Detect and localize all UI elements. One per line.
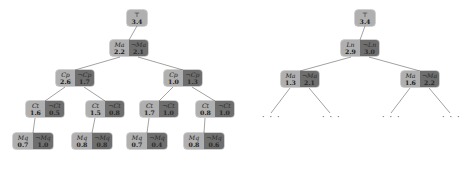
node-literal: ¬Mq xyxy=(149,134,164,141)
node-cell-negative[interactable]: ¬Ma2.1 xyxy=(129,40,148,56)
node-literal: ¬Ct xyxy=(108,102,120,109)
node-value: 3.4 xyxy=(132,18,143,25)
node-cell-positive[interactable]: Ma2.2 xyxy=(110,40,129,56)
node-cell-positive[interactable]: Ct0.8 xyxy=(196,101,215,117)
tree-edge xyxy=(129,26,137,40)
node-cell-positive[interactable]: Cp2.6 xyxy=(56,70,75,86)
node-cell-negative[interactable]: ¬Mq0.6 xyxy=(204,133,224,149)
node-value: 2.2 xyxy=(424,79,435,86)
node-literal: Ln xyxy=(346,41,354,48)
tree-node[interactable]: Ct1.7¬Ct1.0 xyxy=(140,101,178,117)
node-cell-positive[interactable]: Mq0.8 xyxy=(72,133,92,149)
tree-edge xyxy=(391,88,410,113)
node-value: 2.2 xyxy=(114,48,125,55)
node-literal: ¬Ma xyxy=(302,72,317,79)
node-literal: Ma xyxy=(405,72,415,79)
node-cell-negative[interactable]: ¬Mq1.0 xyxy=(33,133,53,149)
node-value: 0.8 xyxy=(200,109,211,116)
node-value: 1.0 xyxy=(219,109,230,116)
node-literal: Mq xyxy=(189,134,199,141)
node-value: 0.8 xyxy=(189,141,200,148)
node-cell-negative[interactable]: ¬Cp1.7 xyxy=(75,70,94,86)
node-value: 1.7 xyxy=(144,109,155,116)
tree-node[interactable]: Ct0.8¬Ct1.0 xyxy=(196,101,234,117)
node-literal: ¬Ma xyxy=(131,41,146,48)
node-value: 1.3 xyxy=(187,78,198,85)
subtree-ellipsis: · · · xyxy=(382,114,401,122)
node-cell-negative[interactable]: ¬Ct0.8 xyxy=(105,101,124,117)
node-literal: ¬Mq xyxy=(94,134,109,141)
node-cell-negative[interactable]: ¬Mq0.8 xyxy=(92,133,112,149)
node-value: 3.4 xyxy=(360,18,371,25)
tree-edge xyxy=(429,88,450,113)
node-value: 1.6 xyxy=(30,109,41,116)
node-cell-positive[interactable]: Ct1.6 xyxy=(26,101,45,117)
tree-edge xyxy=(300,57,351,71)
node-cell-positive[interactable]: Ct1.7 xyxy=(140,101,159,117)
tree-edge xyxy=(360,26,365,40)
tree-edge xyxy=(147,118,149,133)
tree-edge xyxy=(84,87,105,101)
node-literal: Ct xyxy=(32,102,39,109)
node-literal: ¬Ct xyxy=(162,102,174,109)
node-literal: ¬Ct xyxy=(218,102,230,109)
tree-node[interactable]: Cp1.0¬Cp1.3 xyxy=(164,70,202,86)
node-cell-positive[interactable]: Ct1.5 xyxy=(86,101,105,117)
node-literal: Ct xyxy=(202,102,209,109)
tree-node[interactable]: Mq0.7¬Mq1.0 xyxy=(13,133,53,149)
node-cell-positive[interactable]: Ma1.6 xyxy=(401,71,420,87)
node-literal: Cp xyxy=(169,71,178,78)
node-value: 3.0 xyxy=(364,48,375,55)
node-cell-negative[interactable]: ¬Ct1.0 xyxy=(215,101,234,117)
node-literal: ¬Ct xyxy=(48,102,60,109)
node-cell-positive[interactable]: ⊤3.4 xyxy=(127,10,147,26)
node-cell-positive[interactable]: Cp1.0 xyxy=(164,70,183,86)
node-cell-positive[interactable]: Mq0.8 xyxy=(184,133,204,149)
tree-node[interactable]: Mq0.8¬Mq0.6 xyxy=(184,133,224,149)
node-cell-negative[interactable]: ¬Ct1.0 xyxy=(159,101,178,117)
tree-node[interactable]: Ma1.6¬Ma2.2 xyxy=(401,71,439,87)
tree-node[interactable]: Ct1.6¬Ct0.5 xyxy=(26,101,64,117)
tree-node[interactable]: Mq0.8¬Mq0.8 xyxy=(72,133,112,149)
node-literal: ¬Mq xyxy=(35,134,50,141)
search-tree-figure: ⊤3.4Ma2.2¬Ma2.1Cp2.6¬Cp1.7Cp1.0¬Cp1.3Ct1… xyxy=(0,0,472,171)
tree-node[interactable]: ⊤3.4 xyxy=(127,10,147,26)
node-cell-negative[interactable]: ¬Mq0.4 xyxy=(147,133,167,149)
node-literal: ¬Cp xyxy=(186,71,200,78)
node-cell-negative[interactable]: ¬Cp1.3 xyxy=(183,70,202,86)
node-literal: Mq xyxy=(77,134,87,141)
tree-edge xyxy=(369,57,420,71)
node-value: 2.1 xyxy=(304,79,315,86)
tree-node[interactable]: Ma2.2¬Ma2.1 xyxy=(110,40,148,56)
subtree-ellipsis: · · · xyxy=(442,114,461,122)
node-cell-positive[interactable]: Mq0.7 xyxy=(13,133,33,149)
tree-edge xyxy=(309,88,330,113)
tree-node[interactable]: ⊤3.4 xyxy=(355,10,375,26)
node-cell-positive[interactable]: Mq0.7 xyxy=(127,133,147,149)
node-cell-negative[interactable]: ¬Ln3.0 xyxy=(360,40,379,56)
tree-edge xyxy=(271,88,290,113)
tree-node[interactable]: Ma1.3¬Ma2.1 xyxy=(281,71,319,87)
node-literal: ¬Mq xyxy=(206,134,221,141)
node-cell-positive[interactable]: Ma1.3 xyxy=(281,71,300,87)
tree-node[interactable]: Ct1.5¬Ct0.8 xyxy=(86,101,124,117)
node-value: 1.5 xyxy=(90,109,101,116)
node-cell-positive[interactable]: Ln2.9 xyxy=(341,40,360,56)
tree-node[interactable]: Cp2.6¬Cp1.7 xyxy=(56,70,94,86)
tree-node[interactable]: Ln2.9¬Ln3.0 xyxy=(341,40,379,56)
node-cell-negative[interactable]: ¬Ma2.2 xyxy=(420,71,439,87)
node-value: 0.7 xyxy=(132,141,143,148)
node-value: 2.1 xyxy=(133,48,144,55)
node-cell-positive[interactable]: ⊤3.4 xyxy=(355,10,375,26)
tree-edge xyxy=(159,87,173,101)
node-literal: Cp xyxy=(61,71,70,78)
node-literal: Ma xyxy=(114,41,124,48)
node-value: 1.0 xyxy=(38,141,49,148)
node-cell-negative[interactable]: ¬Ct0.5 xyxy=(45,101,64,117)
node-value: 0.8 xyxy=(97,141,108,148)
node-literal: Ct xyxy=(92,102,99,109)
tree-node[interactable]: Mq0.7¬Mq0.4 xyxy=(127,133,167,149)
node-literal: ¬Ln xyxy=(363,41,376,48)
node-cell-negative[interactable]: ¬Ma2.1 xyxy=(300,71,319,87)
tree-edge xyxy=(204,118,205,133)
